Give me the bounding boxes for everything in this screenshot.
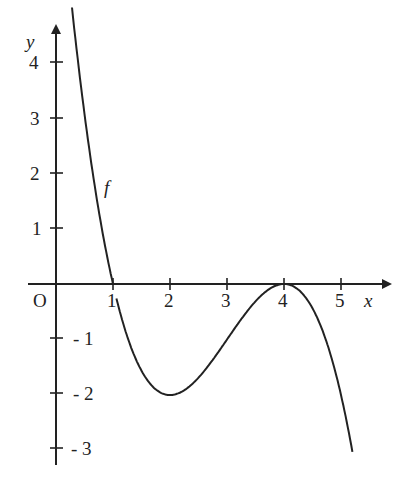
y-tick-label: - 3 [71,438,92,459]
x-axis-label: x [363,290,373,311]
y-tick-label: - 1 [73,328,94,349]
y-tick-label: 4 [29,52,39,73]
y-tick-label: 1 [32,218,42,239]
y-axis-label: y [24,31,35,52]
x-tick-label: 4 [278,290,288,311]
function-curve [116,284,352,452]
function-curve [72,8,113,285]
curve-label: f [104,177,112,198]
function-graph: 1 2 3 4 5 4 3 2 1 - 1 - 2 - 3 y x O f [0,0,406,500]
y-tick-label: 3 [30,108,40,129]
y-tick-label: 2 [30,163,40,184]
x-tick-label: 1 [107,290,117,311]
x-tick-label: 3 [221,290,231,311]
x-tick-label: 2 [164,290,174,311]
origin-label: O [33,290,47,311]
y-tick-label: - 2 [73,383,94,404]
x-tick-label: 5 [335,290,345,311]
